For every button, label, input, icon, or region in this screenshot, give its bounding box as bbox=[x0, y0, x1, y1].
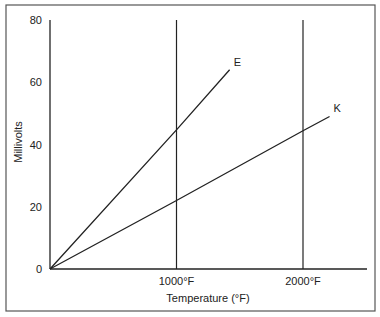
series-label-e: E bbox=[234, 56, 241, 68]
x-tick-1000: 1000°F bbox=[159, 275, 195, 287]
thermocouple-chart: 020406080 1000°F2000°F EK Millivolts Tem… bbox=[0, 0, 380, 317]
series-label-k: K bbox=[334, 102, 342, 114]
y-tick-80: 80 bbox=[30, 14, 42, 26]
y-axis-label: Millivolts bbox=[12, 121, 24, 163]
series-line-e bbox=[50, 70, 230, 269]
x-axis-label: Temperature (°F) bbox=[166, 292, 249, 304]
x-tick-2000: 2000°F bbox=[285, 275, 321, 287]
x-tick-labels: 1000°F2000°F bbox=[159, 275, 321, 287]
y-tick-0: 0 bbox=[36, 263, 42, 275]
data-series: EK bbox=[50, 56, 342, 269]
chart-frame bbox=[6, 5, 375, 311]
series-line-k bbox=[50, 116, 330, 269]
axes bbox=[50, 20, 367, 269]
y-tick-40: 40 bbox=[30, 139, 42, 151]
y-tick-60: 60 bbox=[30, 76, 42, 88]
y-tick-20: 20 bbox=[30, 201, 42, 213]
y-tick-labels: 020406080 bbox=[30, 14, 42, 275]
